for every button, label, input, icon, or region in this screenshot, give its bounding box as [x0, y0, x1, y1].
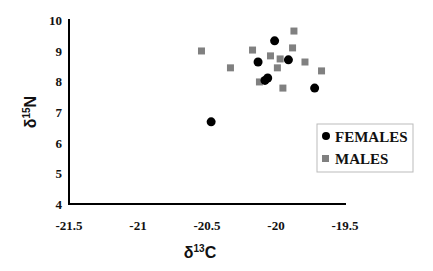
- legend: FEMALES MALES: [317, 124, 413, 172]
- x-tick-labels: -21.5-21-20.5-20-19.5: [55, 218, 359, 233]
- y-tick-label: 6: [56, 136, 63, 151]
- y-tick-label: 5: [56, 166, 63, 181]
- x-tick-label: -21.5: [55, 218, 83, 233]
- male-data-point: [301, 59, 308, 66]
- female-data-point: [254, 58, 263, 67]
- y-tick-label: 4: [56, 197, 63, 212]
- data-points: [198, 28, 325, 127]
- male-data-point: [249, 47, 256, 54]
- female-data-point: [310, 84, 319, 93]
- male-data-point: [227, 64, 234, 71]
- male-data-point: [279, 85, 286, 92]
- female-data-point: [270, 36, 279, 45]
- circle-marker-icon: [322, 132, 330, 140]
- x-tick-label: -20: [267, 218, 284, 233]
- x-tick-label: -20.5: [193, 218, 221, 233]
- legend-item-females: FEMALES: [322, 129, 408, 145]
- legend-label-females: FEMALES: [335, 129, 408, 145]
- scatter-chart: 45678910 -21.5-21-20.5-20-19.5 δ13C δ15N…: [0, 0, 433, 271]
- male-data-point: [267, 52, 274, 59]
- square-marker-icon: [322, 155, 329, 162]
- legend-label-males: MALES: [335, 151, 388, 167]
- male-data-point: [289, 44, 296, 51]
- male-data-point: [277, 55, 284, 62]
- female-data-point: [207, 117, 216, 126]
- y-tick-labels: 45678910: [49, 13, 63, 212]
- x-axis-title: δ13C: [184, 243, 217, 261]
- y-tick-label: 10: [49, 13, 62, 28]
- male-data-point: [290, 28, 297, 35]
- x-tick-label: -21: [129, 218, 146, 233]
- x-tick-label: -19.5: [331, 218, 359, 233]
- plot-area: 45678910 -21.5-21-20.5-20-19.5: [49, 13, 359, 233]
- y-tick-label: 9: [56, 44, 63, 59]
- female-data-point: [284, 55, 293, 64]
- male-data-point: [274, 64, 281, 71]
- male-data-point: [318, 67, 325, 74]
- female-data-point: [260, 76, 269, 85]
- y-tick-label: 7: [56, 105, 63, 120]
- y-axis-title: δ15N: [21, 96, 39, 128]
- y-tick-label: 8: [56, 74, 63, 89]
- male-data-point: [198, 47, 205, 54]
